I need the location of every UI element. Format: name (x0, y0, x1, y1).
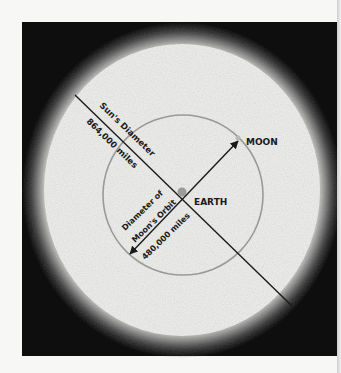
sun-earth-moon-diagram: MOON EARTH Sun's Diameter 864,000 miles … (0, 0, 341, 373)
page-gutter (337, 0, 341, 373)
earth-dot (178, 188, 187, 197)
moon-label: MOON (246, 137, 278, 147)
moon-dot (236, 136, 241, 141)
earth-label: EARTH (194, 197, 227, 207)
diagram-canvas: MOON EARTH Sun's Diameter 864,000 miles … (0, 0, 341, 373)
